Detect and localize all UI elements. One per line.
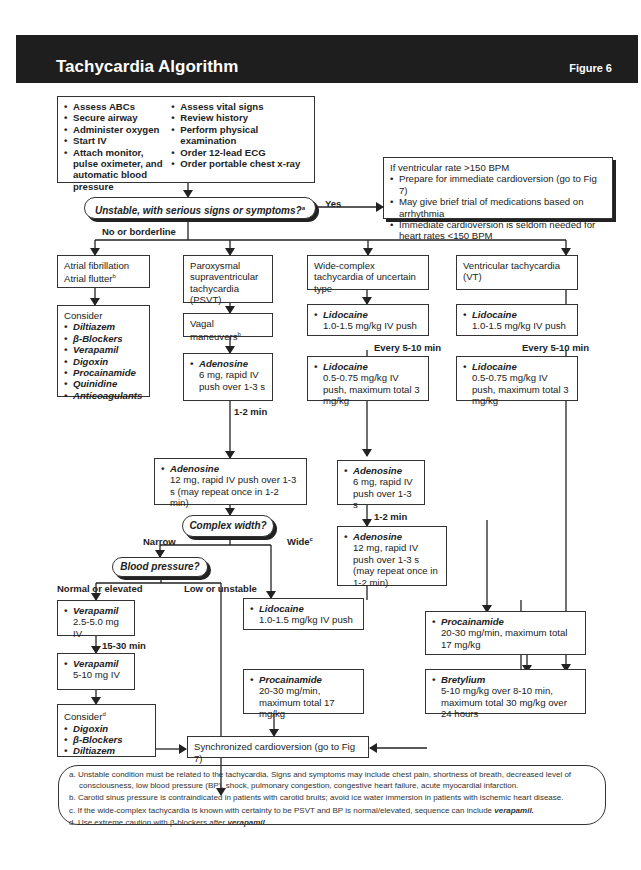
vt-lido2-box: Lidocaine 0.5-0.75 mg/kg IV push, maximu… (456, 356, 578, 401)
synchronized-cardioversion-box: Synchronized cardioversion (go to Fig 7) (187, 736, 369, 758)
interval-label: Every 5-10 min (374, 342, 441, 353)
assess-item: Review history (171, 112, 308, 123)
drug-item: β-Blockers (64, 734, 149, 745)
interval-label: 1-2 min (374, 511, 407, 522)
drug-item: Quinidine (64, 378, 143, 389)
footnote-b: b. Carotid sinus pressure is contraindic… (69, 793, 595, 804)
assess-item: Attach monitor, pulse oximeter, and auto… (64, 147, 167, 193)
drug-item: Diltiazem (64, 745, 149, 756)
vt-lido1-box: Lidocaine 1.0-1.5 mg/kg IV push (456, 304, 578, 336)
blood-pressure-decision: Blood pressure? (112, 557, 208, 577)
cardioversion-prep-box: If ventricular rate >150 BPM Prepare for… (383, 157, 613, 219)
wide-lido1-box: Lidocaine 1.0-1.5 mg/kg IV push (307, 304, 429, 336)
narrow-label: Narrow (143, 536, 176, 547)
verapamil-2-box: Verapamil 5-10 mg IV (57, 653, 135, 690)
no-borderline-label: No or borderline (102, 226, 176, 237)
footnote-c: c. If the wide-complex tachycardia is kn… (69, 806, 595, 817)
wide-complex-box: Wide-complex tachycardia of uncertain ty… (307, 255, 429, 290)
interval-label: 1-2 min (234, 406, 267, 417)
drug-item: Digoxin (64, 723, 149, 734)
vt-procainamide-box: Procainamide 20-30 mg/min, maximum total… (425, 611, 586, 655)
psvt-adenosine-6-box: Adenosine 6 mg, rapid IV push over 1-3 s (183, 353, 273, 401)
assess-item: Perform physical examination (171, 124, 308, 147)
drug-item: Anticoagulants (64, 390, 143, 401)
drug-item: Verapamil (64, 344, 143, 355)
prep-item: May give brief trial of medications base… (390, 196, 606, 219)
vt-box: Ventricular tachycardia (VT) (456, 255, 578, 290)
wide-label: Widec (287, 536, 313, 547)
footnote-d: d. Use extreme caution with β-blockers a… (69, 818, 595, 829)
assess-item: Secure airway (64, 112, 167, 123)
assess-item: Assess vital signs (171, 101, 308, 112)
verapamil-interval-label: 15-30 min (102, 640, 146, 651)
assess-box: Assess ABCs Secure airway Administer oxy… (57, 96, 315, 183)
prep-item: Prepare for immediate cardioversion (go … (390, 173, 606, 196)
low-unstable-label: Low or unstable (184, 583, 257, 594)
verapamil-1-box: Verapamil 2.5-5.0 mg IV (57, 600, 135, 636)
drug-item: Digoxin (64, 356, 143, 367)
drug-item: β-Blockers (64, 333, 143, 344)
footnote-a: a. Unstable condition must be related to… (69, 770, 595, 791)
wide-adenosine-12-box: Adenosine 12 mg, rapid IV push over 1-3 … (337, 526, 447, 586)
interval-label: Every 5-10 min (522, 342, 589, 353)
wide-procainamide-box: Procainamide 20-30 mg/min, maximum total… (243, 669, 364, 714)
footnotes: a. Unstable condition must be related to… (58, 765, 606, 825)
assess-item: Order portable chest x-ray (171, 158, 308, 169)
drug-item: Procainamide (64, 367, 143, 378)
psvt-adenosine-12-box: Adenosine 12 mg, rapid IV push over 1-3 … (154, 458, 307, 505)
afib-box: Atrial fibrillation Atrial flutterb (57, 255, 150, 288)
afib-consider-box: Consider Diltiazem β-Blockers Verapamil … (57, 305, 150, 397)
assess-col2: Assess vital signs Review history Perfor… (171, 101, 308, 192)
assess-item: Order 12-lead ECG (171, 147, 308, 158)
complex-width-decision: Complex width? (182, 515, 274, 537)
assess-item: Administer oxygen (64, 124, 167, 135)
assess-col1: Assess ABCs Secure airway Administer oxy… (64, 101, 167, 192)
yes-label: Yes (325, 198, 341, 209)
consider-narrow-box: Considerd Digoxin β-Blockers Diltiazem (57, 704, 156, 757)
wide-adenosine-6-box: Adenosine 6 mg, rapid IV push over 1-3 s (337, 460, 425, 505)
assess-item: Start IV (64, 135, 167, 146)
prep-item: Immediate cardioversion is seldom needed… (390, 219, 606, 242)
assess-item: Assess ABCs (64, 101, 167, 112)
psvt-box: Paroxysmal supraventricular tachycardia … (183, 255, 273, 303)
wide-lidocaine-box: Lidocaine 1.0-1.5 mg/kg IV push (243, 598, 364, 630)
wide-lido2-box: Lidocaine 0.5-0.75 mg/kg IV push, maximu… (307, 356, 429, 401)
unstable-decision: Unstable, with serious signs or symptoms… (84, 197, 316, 219)
vagal-box: Vagal maneuversb (183, 313, 273, 337)
drug-item: Diltiazem (64, 321, 143, 332)
normal-elevated-label: Normal or elevated (57, 583, 143, 594)
bretylium-box: Bretylium 5-10 mg/kg over 8-10 min, maxi… (425, 669, 586, 714)
